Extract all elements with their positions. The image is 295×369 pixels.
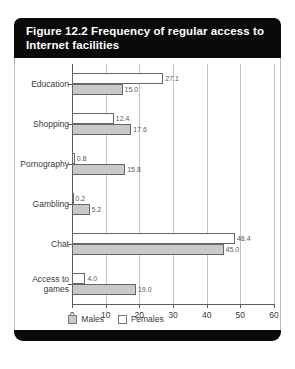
legend-label: Males: [81, 314, 104, 324]
page-title: Figure 12.2 Frequency of regular access …: [26, 24, 271, 52]
bar-value-label: 12.4: [116, 113, 130, 124]
chart-category-row: Education27.115.0: [72, 64, 274, 104]
bar-males-gambling: [72, 204, 90, 215]
figure-bottom-bar: [14, 330, 281, 341]
bar-value-label: 0.2: [76, 193, 86, 204]
bar-value-label: 4.0: [87, 273, 97, 284]
bar-females-gambling: [72, 193, 74, 204]
x-axis-tick-label: 50: [236, 310, 245, 320]
bar-females-chat: [72, 233, 235, 244]
legend-swatch-icon: [68, 315, 77, 324]
bar-females-education: [72, 73, 163, 84]
bar-value-label: 17.6: [133, 124, 147, 135]
chart-legend: MalesFemales: [15, 314, 217, 324]
y-axis-category-label: Pornography: [0, 159, 69, 169]
y-axis-category-label: Access to games: [0, 274, 69, 294]
x-axis-tick: [173, 304, 174, 308]
y-axis-category-label: Gambling: [0, 199, 69, 209]
bar-value-label: 19.0: [138, 284, 152, 295]
chart-panel: 0102030405060Education27.115.0Shopping12…: [14, 58, 281, 330]
bar-value-label: 48.4: [237, 233, 251, 244]
chart-category-row: Pornography0.815.8: [72, 144, 274, 184]
x-axis-tick-label: 60: [269, 310, 278, 320]
bar-males-shopping: [72, 124, 131, 135]
bar-value-label: 45.0: [226, 244, 240, 255]
x-axis-tick: [207, 304, 208, 308]
bar-males-chat: [72, 244, 224, 255]
bar-value-label: 27.1: [165, 73, 179, 84]
legend-swatch-icon: [118, 315, 127, 324]
x-axis-tick: [72, 304, 73, 308]
bar-value-label: 15.0: [125, 84, 139, 95]
x-axis-tick: [240, 304, 241, 308]
x-axis-tick: [106, 304, 107, 308]
y-axis-category-label: Education: [0, 79, 69, 89]
chart-category-row: Access to games4.019.0: [72, 264, 274, 304]
bar-females-pornography: [72, 153, 75, 164]
figure-title-bar: Figure 12.2 Frequency of regular access …: [14, 18, 281, 58]
bar-males-pornography: [72, 164, 125, 175]
chart-category-row: Gambling0.25.2: [72, 184, 274, 224]
x-axis-tick: [274, 304, 275, 308]
x-axis-tick: [139, 304, 140, 308]
bar-males-education: [72, 84, 123, 95]
legend-item-males: Males: [68, 314, 104, 324]
chart-category-row: Shopping12.417.6: [72, 104, 274, 144]
bar-females-shopping: [72, 113, 114, 124]
bar-value-label: 15.8: [127, 164, 141, 175]
bar-value-label: 0.8: [77, 153, 87, 164]
legend-label: Females: [131, 314, 164, 324]
figure-card: Figure 12.2 Frequency of regular access …: [14, 18, 281, 342]
legend-item-females: Females: [118, 314, 164, 324]
chart-category-row: Chat48.445.0: [72, 224, 274, 264]
gridline: [274, 64, 275, 304]
bar-males-access-to-games: [72, 284, 136, 295]
plot-area: 0102030405060Education27.115.0Shopping12…: [72, 64, 274, 304]
bar-value-label: 5.2: [92, 204, 102, 215]
bar-females-access-to-games: [72, 273, 85, 284]
y-axis-category-label: Shopping: [0, 119, 69, 129]
y-axis-category-label: Chat: [0, 239, 69, 249]
